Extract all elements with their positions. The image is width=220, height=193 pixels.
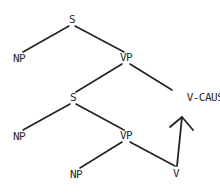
movement-arrow bbox=[170, 117, 193, 166]
tree-edge-vp1-s2 bbox=[76, 64, 122, 92]
node-s-embedded: S bbox=[70, 92, 76, 104]
arrow-shaft bbox=[177, 117, 182, 166]
node-v: V bbox=[173, 168, 179, 180]
tree-edge-s2-vp2 bbox=[76, 104, 124, 130]
node-np-embedded-subject: NP bbox=[13, 131, 25, 143]
node-s-root: S bbox=[69, 14, 75, 26]
node-v-caus: V-CAUS bbox=[187, 92, 220, 104]
node-np-object: NP bbox=[70, 169, 82, 181]
tree-edge-s1-np1 bbox=[23, 26, 69, 52]
tree-edge-vp2-v bbox=[130, 142, 175, 166]
tree-edge-vp1-vcaus bbox=[130, 64, 172, 90]
node-vp-embedded: VP bbox=[120, 130, 132, 142]
tree-edge-vp2-np3 bbox=[80, 142, 122, 168]
tree-edges bbox=[23, 26, 175, 168]
node-vp-matrix: VP bbox=[120, 52, 132, 64]
tree-edge-s1-vp1 bbox=[75, 26, 124, 52]
tree-edge-s2-np2 bbox=[23, 104, 70, 130]
node-np-subject: NP bbox=[13, 53, 25, 65]
